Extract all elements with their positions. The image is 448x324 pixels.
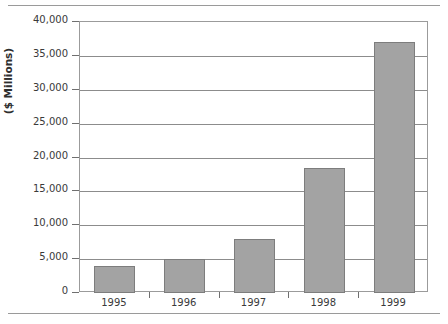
bottom-divider-rule: [8, 313, 440, 314]
y-axis-tick-mark: [72, 89, 79, 90]
y-axis-tick-mark: [72, 21, 79, 22]
top-divider-rule: [8, 5, 440, 6]
y-axis-tick-mark: [72, 292, 79, 293]
x-axis-tick-label-1999: 1999: [358, 297, 428, 308]
y-axis-tick-mark: [72, 123, 79, 124]
y-axis-tick-mark: [72, 55, 79, 56]
bar-1999[interactable]: [374, 42, 415, 293]
bar-1995[interactable]: [94, 266, 135, 293]
y-axis-tick-mark: [72, 157, 79, 158]
y-axis-tick-label: 35,000: [33, 48, 68, 59]
x-axis-tick-label-1996: 1996: [149, 297, 219, 308]
y-axis-tick-mark: [72, 224, 79, 225]
bar-1996[interactable]: [164, 259, 205, 293]
x-axis-tick-label-1998: 1998: [288, 297, 358, 308]
y-axis-tick-label: 25,000: [33, 116, 68, 127]
y-axis-tick-label: 20,000: [33, 150, 68, 161]
y-axis-title: ($ Millions): [2, 26, 14, 136]
x-axis-tick-label-1995: 1995: [79, 297, 149, 308]
y-axis-tick-label: 10,000: [33, 217, 68, 228]
plot-area: [79, 21, 428, 292]
y-axis-tick-label: 40,000: [33, 14, 68, 25]
bar-1998[interactable]: [304, 168, 345, 293]
x-axis-tick-label-1997: 1997: [219, 297, 289, 308]
y-axis-tick-label: 0: [62, 285, 68, 296]
y-axis-tick-label: 15,000: [33, 183, 68, 194]
y-axis-tick-label: 5,000: [39, 251, 68, 262]
y-axis-tick-mark: [72, 258, 79, 259]
bar-chart-figure: ($ Millions) 05,00010,00015,00020,00025,…: [0, 0, 448, 324]
y-axis-tick-label: 30,000: [33, 82, 68, 93]
bar-1997[interactable]: [234, 239, 275, 293]
y-axis-tick-mark: [72, 190, 79, 191]
